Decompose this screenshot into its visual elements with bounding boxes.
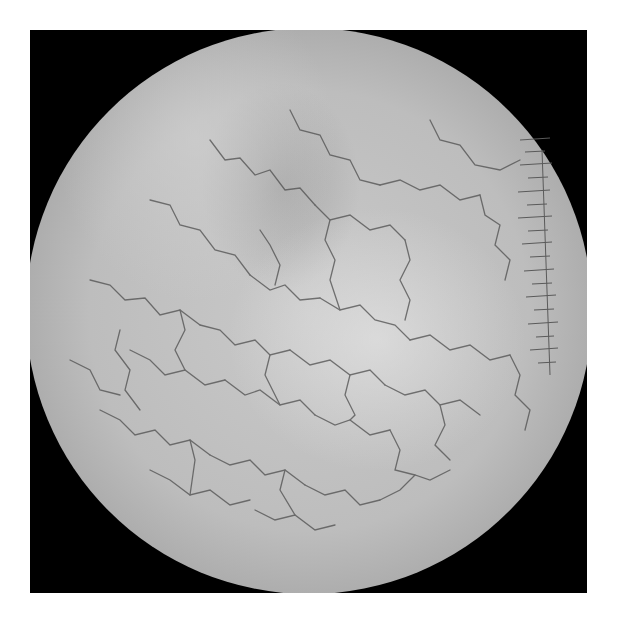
dermoscopy-frame (30, 30, 587, 593)
scale-ruler (518, 138, 558, 375)
vessel-network (30, 30, 587, 593)
